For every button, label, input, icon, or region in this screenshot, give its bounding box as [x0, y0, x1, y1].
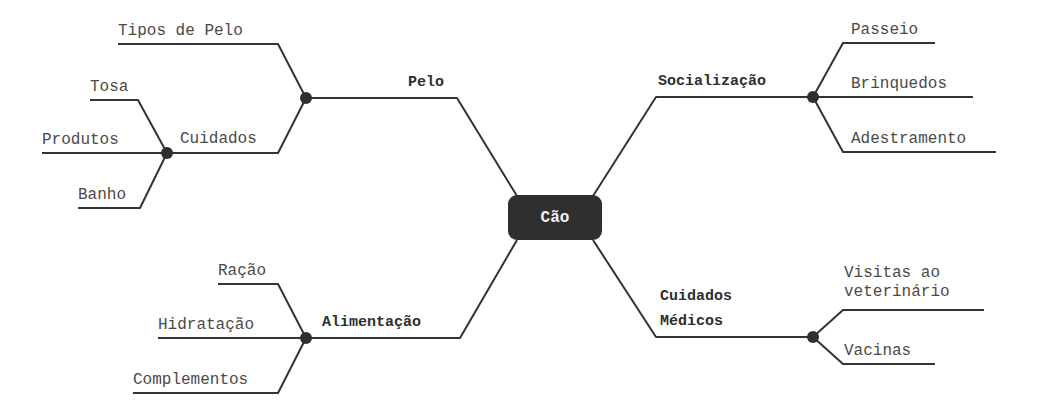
leaf-label-hidratacao[interactable]: Hidratação — [158, 316, 254, 334]
branch-label-cuidados-medicos[interactable]: Cuidados Médicos — [660, 284, 732, 334]
connector-socializacao — [593, 97, 813, 196]
leaf-label-adestramento[interactable]: Adestramento — [851, 130, 966, 148]
center-node-label: Cão — [541, 209, 570, 227]
connector-pelo — [306, 98, 517, 196]
leaf-label-racao[interactable]: Ração — [218, 262, 266, 280]
leaf-label-tipos-de-pelo[interactable]: Tipos de Pelo — [118, 22, 243, 40]
node-dot-cuidados-medicos — [807, 331, 819, 343]
leaf-label-visitas-ao-veterinario[interactable]: Visitas ao veterinário — [844, 264, 950, 302]
leaf-label-tosa[interactable]: Tosa — [90, 78, 128, 96]
branch-label-cuidados-medicos-line2: Médicos — [660, 309, 732, 334]
leaf-label-visitas-line1: Visitas ao — [844, 264, 950, 283]
leaf-label-brinquedos[interactable]: Brinquedos — [851, 75, 947, 93]
connector-visitas — [813, 310, 984, 337]
node-dot-pelo — [300, 92, 312, 104]
center-node[interactable]: Cão — [508, 195, 602, 240]
node-dot-alimentacao — [300, 332, 312, 344]
leaf-label-complementos[interactable]: Complementos — [133, 371, 248, 389]
branch-label-pelo[interactable]: Pelo — [408, 74, 444, 92]
branch-label-socializacao[interactable]: Socialização — [658, 73, 766, 91]
node-dot-cuidados — [161, 147, 173, 159]
connector-tipos-de-pelo — [118, 44, 306, 98]
branch-label-cuidados-medicos-line1: Cuidados — [660, 284, 732, 309]
branch-label-alimentacao[interactable]: Alimentação — [322, 314, 421, 332]
leaf-label-visitas-line2: veterinário — [844, 283, 950, 302]
node-dot-socializacao — [807, 91, 819, 103]
leaf-label-vacinas[interactable]: Vacinas — [844, 342, 911, 360]
subbranch-label-cuidados[interactable]: Cuidados — [180, 130, 257, 148]
leaf-label-passeio[interactable]: Passeio — [851, 21, 918, 39]
leaf-label-banho[interactable]: Banho — [78, 186, 126, 204]
leaf-label-produtos[interactable]: Produtos — [42, 131, 119, 149]
